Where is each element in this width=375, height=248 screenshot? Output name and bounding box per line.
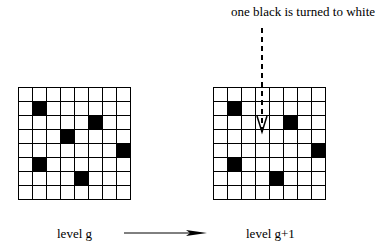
dashed-down-arrow-icon xyxy=(257,28,267,132)
label-level-g-plus-1: level g+1 xyxy=(246,226,295,242)
label-level-g: level g xyxy=(57,226,92,242)
transition-arrow-icon xyxy=(124,230,207,236)
